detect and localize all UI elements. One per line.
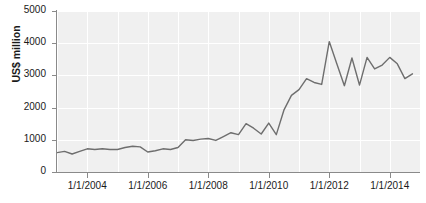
- y-axis-tick: [52, 75, 57, 76]
- x-axis-tick: [148, 173, 149, 178]
- y-axis-tick: [52, 140, 57, 141]
- y-axis-tick-label: 0: [6, 165, 46, 176]
- y-axis-tick-label: 5000: [6, 4, 46, 15]
- y-axis-title: US$ million: [10, 4, 26, 104]
- gridline-vertical: [420, 11, 421, 172]
- y-axis-tick-label: 2000: [6, 101, 46, 112]
- x-axis-tick: [208, 173, 209, 178]
- plot-area: [57, 11, 420, 172]
- y-axis-tick-label: 4000: [6, 36, 46, 47]
- x-axis-tick-label: 1/1/2006: [113, 180, 183, 191]
- x-axis-line: [56, 172, 420, 173]
- y-axis-tick: [52, 43, 57, 44]
- x-axis-tick: [329, 173, 330, 178]
- y-axis-tick-label: 3000: [6, 68, 46, 79]
- x-axis-tick-label: 1/1/2012: [294, 180, 364, 191]
- y-axis-tick: [52, 11, 57, 12]
- y-axis-tick: [52, 108, 57, 109]
- x-axis-tick-label: 1/1/2008: [173, 180, 243, 191]
- x-axis-tick-label: 1/1/2010: [234, 180, 304, 191]
- x-axis-tick: [269, 173, 270, 178]
- x-axis-tick-label: 1/1/2004: [52, 180, 122, 191]
- y-axis-tick-label: 1000: [6, 133, 46, 144]
- line-chart: US$ million 010002000300040005000 1/1/20…: [0, 0, 426, 203]
- series-line-us-dollar-million: [57, 11, 420, 172]
- x-axis-tick: [390, 173, 391, 178]
- y-axis-tick: [52, 172, 57, 173]
- x-axis-tick: [87, 173, 88, 178]
- y-axis-line: [56, 10, 57, 173]
- x-axis-tick-label: 1/1/2014: [355, 180, 425, 191]
